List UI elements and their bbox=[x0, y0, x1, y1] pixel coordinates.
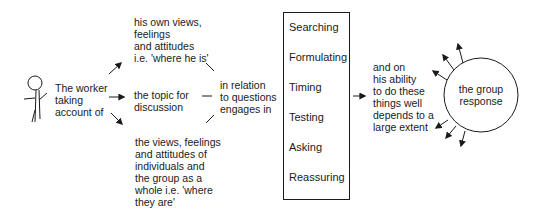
skill-timing: Timing bbox=[289, 81, 322, 93]
skill-searching: Searching bbox=[289, 21, 339, 33]
skill-testing: Testing bbox=[289, 111, 324, 123]
relation-text: in relationto questionsengages in bbox=[220, 79, 277, 115]
worker-label: The workertakingaccount of bbox=[55, 82, 108, 118]
stick-figure-icon bbox=[24, 76, 47, 122]
arrow-to-group-views bbox=[111, 113, 122, 124]
skill-formulating: Formulating bbox=[289, 51, 347, 63]
arrow-to-own-views bbox=[109, 63, 121, 74]
group-work-diagram: The workertakingaccount of his own views… bbox=[0, 0, 540, 216]
topic-text: the topic fordiscussion bbox=[134, 89, 189, 113]
skill-asking: Asking bbox=[289, 141, 322, 153]
group-response-label: the groupresponse bbox=[451, 83, 511, 107]
group-views-text: the views, feelingsand attitudes of indi… bbox=[135, 136, 221, 208]
dependency-text: and onhis ability to do thesethings well… bbox=[373, 61, 434, 133]
skill-reassuring: Reassuring bbox=[289, 171, 345, 183]
own-views-text: his own views,feelings and attitudesi.e.… bbox=[134, 16, 209, 64]
